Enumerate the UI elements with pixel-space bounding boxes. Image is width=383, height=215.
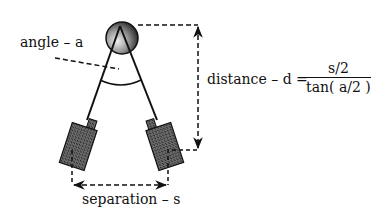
angle-label: angle – a xyxy=(20,34,83,50)
formula-numerator: s/2 xyxy=(306,60,371,78)
formula-denominator: tan( a/2 ) xyxy=(306,78,371,95)
left-sight-line xyxy=(87,26,120,120)
separation-label: separation – s xyxy=(82,191,180,207)
distance-label: distance – d = xyxy=(207,71,308,87)
angle-leader-line xyxy=(55,58,119,69)
diagram-canvas: angle – a distance – d = s/2 tan( a/2 ) … xyxy=(0,0,383,215)
angle-arc xyxy=(100,80,141,85)
right-camera-icon xyxy=(143,114,183,171)
diagram-graphics xyxy=(0,0,383,215)
left-camera-icon xyxy=(59,114,99,171)
distance-formula: s/2 tan( a/2 ) xyxy=(306,60,371,95)
